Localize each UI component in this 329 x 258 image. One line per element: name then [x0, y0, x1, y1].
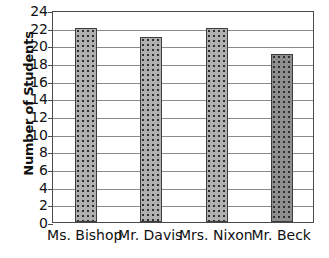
- y-axis-tick-label: 6: [39, 163, 48, 177]
- x-axis-tick-labels: Ms. BishopMr. DavisMrs. NixonMr. Beck: [52, 226, 329, 250]
- bars-layer: [53, 12, 313, 222]
- y-axis-tick-labels: 242220181614121086420: [20, 11, 48, 223]
- x-axis-tick-label: Mr. Davis: [118, 226, 182, 244]
- bar-chart: Number of Students 242220181614121086420…: [0, 0, 329, 258]
- x-axis-tick-label: Ms. Bishop: [47, 226, 122, 244]
- y-axis-tick-label: 20: [30, 39, 48, 53]
- y-axis-tickmark: [48, 224, 53, 225]
- y-axis-tick-label: 10: [30, 128, 48, 142]
- x-axis-tick-label: Mr. Beck: [252, 226, 311, 244]
- y-axis-tick-label: 12: [30, 110, 48, 124]
- bar: [271, 54, 293, 222]
- bar: [140, 37, 162, 223]
- y-axis-tick-label: 8: [39, 145, 48, 159]
- y-axis-tick-label: 16: [30, 75, 48, 89]
- y-axis-tick-label: 14: [30, 92, 48, 106]
- x-axis-tick-label: Mrs. Nixon: [179, 226, 253, 244]
- y-axis-tick-label: 2: [39, 198, 48, 212]
- bar: [206, 28, 228, 222]
- y-axis-tick-label: 18: [30, 57, 48, 71]
- y-axis-tick-label: 24: [30, 4, 48, 18]
- y-axis-tick-label: 22: [30, 22, 48, 36]
- plot-area: [52, 11, 314, 223]
- y-axis-tick-label: 4: [39, 181, 48, 195]
- bar: [75, 28, 97, 222]
